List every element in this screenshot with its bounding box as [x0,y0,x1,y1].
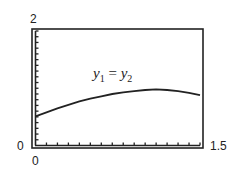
annotation-equals: = [105,65,121,81]
annotation-sub2: 2 [127,73,132,84]
curve-y1-equals-y2 [36,89,201,116]
curve-annotation: y1 = y2 [93,66,132,84]
annotation-var1: y [93,65,100,81]
x-max-label: 1.5 [210,140,227,152]
plot-frame [32,29,203,148]
axis-ticks [36,31,201,146]
x-min-label: 0 [32,155,39,167]
y-max-label: 2 [30,13,37,25]
y-min-label: 0 [17,140,24,152]
